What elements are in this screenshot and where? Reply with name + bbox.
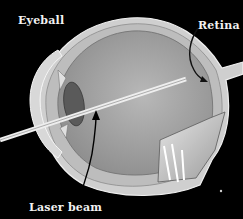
eyeball-illustration [0,0,243,219]
eyeball-label: Eyeball [18,14,64,27]
eyeball-diagram: Eyeball Retina Laser beam [0,0,243,219]
laser-beam-label: Laser beam [29,201,102,214]
retina-label: Retina [198,19,240,32]
